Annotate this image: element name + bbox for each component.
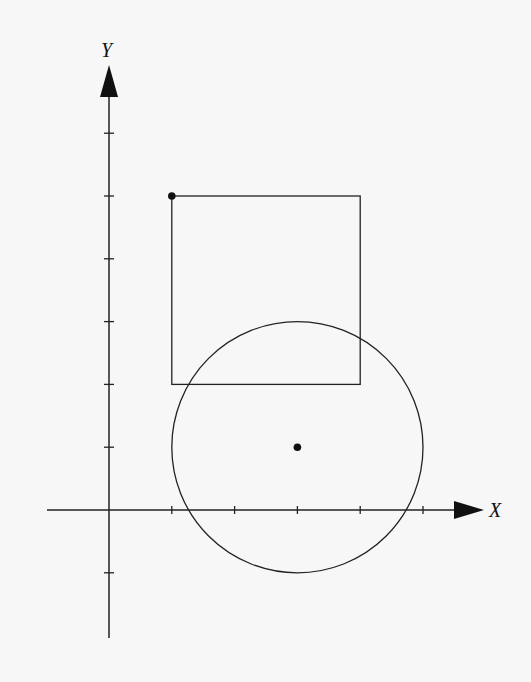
- x-axis: X: [47, 499, 502, 521]
- coordinate-diagram: X Y: [0, 0, 531, 682]
- x-axis-label: X: [488, 499, 502, 521]
- circle-center-point: [294, 443, 302, 451]
- square-shape: [172, 196, 360, 384]
- y-axis-label: Y: [101, 39, 114, 61]
- y-axis: Y: [100, 39, 118, 638]
- square-vertex-point: [168, 192, 176, 200]
- y-axis-arrow-icon: [100, 65, 118, 97]
- x-axis-arrow-icon: [454, 501, 484, 519]
